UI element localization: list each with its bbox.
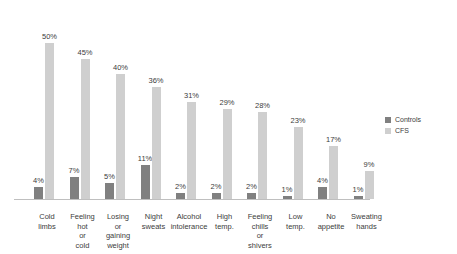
bar-cfs: 40% [116,74,125,199]
category-label: Noappetite [311,212,351,231]
legend-item-cfs: CFS [385,127,421,134]
category-label: Alcoholintolerance [169,212,209,231]
x-axis-line [14,199,370,200]
bar-cfs: 50% [45,43,54,199]
bar-cfs: 28% [258,112,267,199]
bar-value-label: 45% [77,48,92,59]
bar-group: 4%50% [32,9,62,199]
bar-value-label: 1% [282,185,293,196]
bar-cfs: 29% [223,109,232,199]
bar-group: 1%23% [281,9,311,199]
bar-value-label: 4% [317,176,328,187]
legend-item-controls: Controls [385,116,421,123]
bar-cfs: 23% [294,127,303,199]
category-label: Losingorgainingweight [98,212,138,250]
bar-controls: 2% [176,193,185,199]
legend-swatch-controls [385,117,391,123]
bar-value-label: 1% [353,185,364,196]
category-label: Lowtemp. [276,212,316,231]
bar-value-label: 17% [326,135,341,146]
bar-value-label: 7% [69,166,80,177]
bar-controls: 1% [283,196,292,199]
bar-value-label: 2% [246,182,257,193]
bar-controls: 4% [318,187,327,199]
bar-value-label: 28% [255,101,270,112]
bar-value-label: 2% [175,182,186,193]
bar-chart: 4%50%Coldlimbs7%45%Feelinghotorcold5%40%… [0,0,457,254]
bar-value-label: 2% [211,182,222,193]
chart-legend: Controls CFS [385,116,421,138]
bar-value-label: 29% [219,98,234,109]
bar-value-label: 40% [113,63,128,74]
bar-group: 4%17% [316,9,346,199]
bar-value-label: 11% [138,154,152,165]
category-label: Sweatinghands [347,212,387,231]
bar-value-label: 9% [364,160,375,171]
bar-cfs: 31% [187,102,196,199]
bar-value-label: 50% [42,32,57,43]
bar-group: 11%36% [139,9,169,199]
bar-controls: 1% [354,196,363,199]
bar-controls: 2% [212,193,221,199]
bar-controls: 4% [34,187,43,199]
category-label: Hightemp. [205,212,245,231]
bar-cfs: 36% [152,87,161,199]
legend-swatch-cfs [385,128,391,134]
bar-value-label: 36% [148,76,163,87]
bar-value-label: 5% [104,172,115,183]
legend-label-controls: Controls [395,116,421,123]
category-label: Nightsweats [134,212,174,231]
bar-cfs: 9% [365,171,374,199]
category-label: Coldlimbs [27,212,67,231]
legend-label-cfs: CFS [395,127,409,134]
bar-group: 2%31% [174,9,204,199]
bar-value-label: 31% [184,91,199,102]
category-label: Feelingchillsorshivers [240,212,280,250]
bar-controls: 5% [105,183,114,199]
bar-controls: 2% [247,193,256,199]
bar-group: 2%28% [245,9,275,199]
bar-controls: 7% [70,177,79,199]
plot-area: 4%50%Coldlimbs7%45%Feelinghotorcold5%40%… [14,8,370,200]
bar-value-label: 23% [290,116,305,127]
category-label: Feelinghotorcold [63,212,103,250]
bar-group: 5%40% [103,9,133,199]
bar-group: 7%45% [68,9,98,199]
bar-cfs: 45% [81,59,90,199]
bar-group: 1%9% [352,9,382,199]
bar-cfs: 17% [329,146,338,199]
bar-value-label: 4% [33,176,44,187]
bar-controls: 11% [141,165,150,199]
bar-group: 2%29% [210,9,240,199]
